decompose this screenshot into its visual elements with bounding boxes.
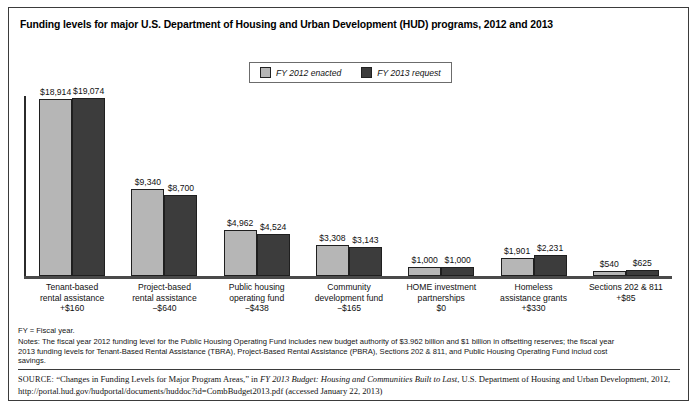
bar-value-label: $9,340	[135, 177, 161, 187]
category-label: Homelessassistance grants+$330	[487, 282, 579, 324]
bar-value-label: $3,143	[352, 235, 378, 245]
bar-group: $9,340$8,700	[118, 96, 210, 276]
source-text-before: “Changes in Funding Levels for Major Pro…	[54, 374, 260, 384]
bar-group: $18,914$19,074	[26, 96, 118, 276]
category-label: HOME investmentpartnerships$0	[395, 282, 487, 324]
category-name-line: rental assistance	[118, 293, 210, 304]
bar-fy2013[interactable]: $3,143	[349, 247, 382, 276]
category-name-line: Public housing	[211, 282, 303, 293]
category-label-container: Tenant-basedrental assistance+$160Projec…	[26, 282, 672, 324]
bar-fy2013[interactable]: $19,074	[72, 98, 105, 276]
bar-group: $4,962$4,524	[211, 96, 303, 276]
bar-pair: $540$625	[593, 270, 659, 276]
category-name-line: assistance grants	[487, 293, 579, 304]
source-label: SOURCE:	[18, 375, 54, 384]
legend-swatch-icon	[361, 67, 372, 78]
bar-value-label: $1,000	[412, 255, 438, 265]
category-change-value: $0	[395, 303, 487, 314]
category-label: Communitydevelopment fund−$165	[303, 282, 395, 324]
note-line-2: 2013 funding levels for Tenant-Based Ren…	[18, 347, 680, 356]
source-publication-title: FY 2013 Budget: Housing and Communities …	[260, 374, 457, 384]
bar-pair: $18,914$19,074	[39, 98, 105, 276]
bar-fy2012[interactable]: $1,000	[408, 267, 441, 276]
chart-legend: FY 2012 enacted FY 2013 request	[249, 62, 452, 83]
bar-value-label: $540	[600, 259, 619, 269]
category-name-line: Project-based	[118, 282, 210, 293]
category-label: Project-basedrental assistance−$640	[118, 282, 210, 324]
bar-value-label: $18,914	[40, 87, 71, 97]
bar-fy2013[interactable]: $1,000	[441, 267, 474, 276]
category-name-line: partnerships	[395, 293, 487, 304]
bar-fy2013[interactable]: $2,231	[534, 255, 567, 276]
category-name-line: Tenant-based	[26, 282, 118, 293]
source-citation: SOURCE: “Changes in Funding Levels for M…	[18, 374, 680, 396]
legend-swatch-icon	[260, 67, 271, 78]
legend-item-fy2012: FY 2012 enacted	[260, 67, 341, 78]
category-name-line: development fund	[303, 293, 395, 304]
category-change-value: +$85	[580, 293, 672, 304]
bar-value-label: $1,901	[504, 246, 530, 256]
bar-pair: $1,000$1,000	[408, 267, 474, 276]
bar-group: $1,901$2,231	[487, 96, 579, 276]
bar-group: $1,000$1,000	[395, 96, 487, 276]
category-change-value: +$160	[26, 303, 118, 314]
legend-label-fy2012: FY 2012 enacted	[276, 68, 341, 78]
category-change-value: +$330	[487, 303, 579, 314]
bar-fy2012[interactable]: $1,901	[501, 258, 534, 276]
bar-fy2012[interactable]: $9,340	[131, 189, 164, 276]
bar-value-label: $625	[633, 258, 652, 268]
divider	[18, 369, 680, 370]
bar-value-label: $8,700	[168, 183, 194, 193]
legend-item-fy2013: FY 2013 request	[361, 67, 440, 78]
note-line-3: savings.	[18, 356, 680, 365]
bar-pair: $3,308$3,143	[316, 245, 382, 276]
category-label: Sections 202 & 811+$85	[580, 282, 672, 324]
bar-value-label: $19,074	[73, 86, 104, 96]
category-name-line: HOME investment	[395, 282, 487, 293]
chart-notes: FY = Fiscal year. Notes: The fiscal year…	[18, 326, 680, 365]
bar-group-container: $18,914$19,074$9,340$8,700$4,962$4,524$3…	[26, 96, 672, 276]
bar-fy2013[interactable]: $4,524	[257, 234, 290, 276]
category-name-line: rental assistance	[26, 293, 118, 304]
category-change-value: −$165	[303, 303, 395, 314]
x-axis-line	[24, 276, 672, 279]
category-change-value: −$640	[118, 303, 210, 314]
chart-plot-area: $18,914$19,074$9,340$8,700$4,962$4,524$3…	[24, 96, 672, 278]
note-fy: FY = Fiscal year.	[18, 326, 680, 335]
legend-label-fy2013: FY 2013 request	[377, 68, 440, 78]
figure-page: Funding levels for major U.S. Department…	[0, 0, 697, 412]
page-title: Funding levels for major U.S. Department…	[20, 19, 670, 30]
bar-fy2013[interactable]: $8,700	[164, 195, 197, 276]
category-name-line: Homeless	[487, 282, 579, 293]
bar-value-label: $4,962	[227, 218, 253, 228]
bar-value-label: $4,524	[260, 222, 286, 232]
category-change-value: −$438	[211, 303, 303, 314]
bar-value-label: $3,308	[319, 233, 345, 243]
note-line-1: Notes: The fiscal year 2012 funding leve…	[18, 337, 680, 346]
bar-fy2012[interactable]: $540	[593, 271, 626, 276]
bar-fy2012[interactable]: $4,962	[224, 230, 257, 276]
category-name-line: Sections 202 & 811	[580, 282, 672, 293]
category-label: Tenant-basedrental assistance+$160	[26, 282, 118, 324]
bar-fy2013[interactable]: $625	[626, 270, 659, 276]
bar-pair: $9,340$8,700	[131, 189, 197, 276]
bar-value-label: $2,231	[537, 243, 563, 253]
bar-fy2012[interactable]: $3,308	[316, 245, 349, 276]
bar-pair: $1,901$2,231	[501, 255, 567, 276]
bar-fy2012[interactable]: $18,914	[39, 99, 72, 276]
category-name-line: operating fund	[211, 293, 303, 304]
bar-value-label: $1,000	[445, 255, 471, 265]
bar-group: $3,308$3,143	[303, 96, 395, 276]
bar-group: $540$625	[580, 96, 672, 276]
category-label: Public housingoperating fund−$438	[211, 282, 303, 324]
bar-pair: $4,962$4,524	[224, 230, 290, 276]
category-name-line: Community	[303, 282, 395, 293]
